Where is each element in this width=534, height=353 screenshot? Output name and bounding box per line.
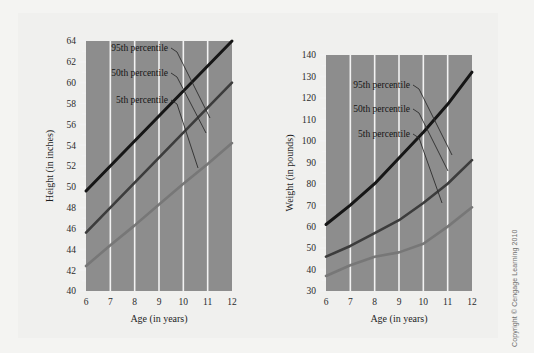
- y-axis-title: Height (in inches): [44, 130, 56, 202]
- y-axis-tick-label: 54: [67, 141, 77, 151]
- y-axis-tick-label: 58: [67, 99, 77, 109]
- series-label: 5th percentile: [116, 95, 168, 105]
- y-axis-tick-label: 50: [307, 243, 317, 253]
- series-label: 50th percentile: [111, 68, 168, 78]
- weight-chart: 304050607080901001101201301406789101112A…: [270, 23, 498, 333]
- x-axis-title: Age (in years): [130, 313, 187, 325]
- x-axis-tick-label: 10: [419, 297, 429, 307]
- x-axis-tick-label: 8: [132, 297, 137, 307]
- figure-panel: 404244464850525456586062646789101112Age …: [18, 13, 498, 338]
- figure-canvas: 404244464850525456586062646789101112Age …: [0, 0, 534, 353]
- y-axis-tick-label: 46: [67, 224, 77, 234]
- y-axis-title: Weight (in pounds): [284, 135, 296, 212]
- series-label: 95th percentile: [353, 80, 410, 90]
- x-axis-tick-label: 6: [84, 297, 89, 307]
- y-axis-tick-label: 70: [307, 201, 317, 211]
- y-axis-tick-label: 120: [302, 93, 317, 103]
- y-axis-tick-label: 44: [67, 245, 77, 255]
- y-axis-tick-label: 90: [307, 158, 317, 168]
- y-axis-tick-label: 56: [67, 120, 77, 130]
- y-axis-tick-label: 50: [67, 182, 77, 192]
- y-axis-tick-label: 48: [67, 203, 77, 213]
- series-label: 5th percentile: [358, 129, 410, 139]
- y-axis-tick-label: 30: [307, 286, 317, 296]
- x-axis-tick-label: 12: [467, 297, 477, 307]
- copyright-text: Copyright © Cengage Learning 2010: [511, 230, 518, 347]
- series-label: 95th percentile: [111, 43, 168, 53]
- series-label: 50th percentile: [353, 104, 410, 114]
- y-axis-tick-label: 100: [302, 136, 317, 146]
- x-axis-tick-label: 11: [443, 297, 452, 307]
- x-axis-tick-label: 9: [157, 297, 162, 307]
- y-axis-tick-label: 80: [307, 179, 317, 189]
- y-axis-tick-label: 62: [67, 57, 77, 67]
- x-axis-title: Age (in years): [370, 313, 427, 325]
- weight-chart-svg: 304050607080901001101201301406789101112A…: [270, 23, 498, 333]
- x-axis-tick-label: 7: [108, 297, 113, 307]
- y-axis-tick-label: 64: [67, 36, 77, 46]
- y-axis-tick-label: 52: [67, 161, 77, 171]
- x-axis-tick-label: 6: [324, 297, 329, 307]
- copyright-notice: Copyright © Cengage Learning 2010: [518, 207, 530, 347]
- x-axis-tick-label: 8: [372, 297, 377, 307]
- y-axis-tick-label: 40: [307, 265, 317, 275]
- x-axis-tick-label: 11: [203, 297, 212, 307]
- height-chart-svg: 404244464850525456586062646789101112Age …: [40, 23, 280, 333]
- x-axis-tick-label: 7: [348, 297, 353, 307]
- y-axis-tick-label: 60: [67, 78, 77, 88]
- y-axis-tick-label: 40: [67, 286, 77, 296]
- x-axis-tick-label: 12: [227, 297, 237, 307]
- y-axis-tick-label: 60: [307, 222, 317, 232]
- y-axis-tick-label: 42: [67, 266, 77, 276]
- y-axis-tick-label: 140: [302, 50, 317, 60]
- y-axis-tick-label: 130: [302, 72, 317, 82]
- y-axis-tick-label: 110: [302, 115, 316, 125]
- height-chart: 404244464850525456586062646789101112Age …: [40, 23, 280, 333]
- x-axis-tick-label: 9: [397, 297, 402, 307]
- x-axis-tick-label: 10: [179, 297, 189, 307]
